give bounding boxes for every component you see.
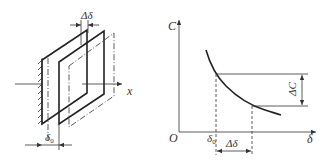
delta-delta-label: Δδ — [225, 137, 238, 149]
delta0-label: δ0 — [207, 132, 216, 146]
delta-c-label: ΔC — [286, 82, 298, 97]
x-axis-label: δ — [307, 132, 313, 146]
diagram-canvas: Δδ x δ0 C O δ ΔC δ0 Δδ — [0, 0, 321, 167]
y-axis-label: C — [168, 19, 177, 33]
capacitor-sketch: Δδ x δ0 — [15, 9, 133, 150]
left-x-axis-label: x — [126, 84, 133, 98]
left-delta0-label: δ0 — [45, 131, 54, 145]
capacitance-graph: C O δ ΔC δ0 Δδ — [168, 19, 316, 155]
capacitance-curve — [206, 50, 281, 115]
left-delta-delta-label: Δδ — [80, 9, 93, 21]
origin-label: O — [169, 131, 178, 145]
